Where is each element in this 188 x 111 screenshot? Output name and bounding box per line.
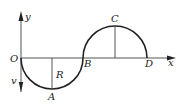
point-b-label: B (83, 58, 91, 69)
point-d-label: D (144, 58, 153, 69)
point-a-label: A (47, 91, 55, 102)
y-axis-arrow-icon (19, 11, 24, 21)
origin-label: O (10, 53, 18, 64)
x-axis-label: x (168, 57, 174, 68)
radius-label: R (55, 69, 64, 80)
point-c-label: C (111, 13, 119, 24)
y-axis-label: y (24, 11, 31, 22)
velocity-arrow-icon (19, 82, 23, 92)
velocity-label: v (11, 75, 17, 86)
track-diagram: y O v R A B C D x (0, 0, 188, 111)
